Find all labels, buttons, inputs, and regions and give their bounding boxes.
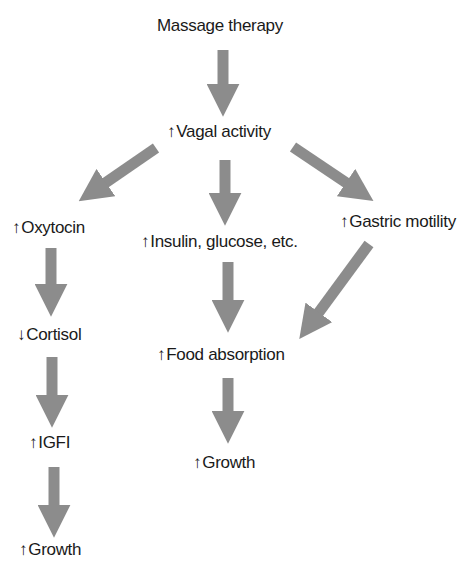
arrow-gastric-to-food (311, 244, 369, 323)
node-label: Food absorption (166, 345, 284, 364)
increase-arrow-icon: ↑ (29, 433, 37, 452)
increase-arrow-icon: ↑ (193, 453, 201, 472)
increase-arrow-icon: ↑ (167, 122, 175, 141)
node-vagal-activity: ↑Vagal activity (167, 122, 271, 142)
node-growth-left: ↑Growth (19, 540, 81, 560)
node-massage-therapy: Massage therapy (157, 16, 283, 36)
increase-arrow-icon: ↑ (12, 218, 20, 237)
node-label: Oxytocin (21, 218, 85, 237)
node-food-absorption: ↑Food absorption (157, 345, 285, 365)
node-label: Insulin, glucose, etc. (150, 232, 297, 251)
node-igfi: ↑IGFI (29, 433, 70, 453)
node-growth-middle: ↑Growth (193, 453, 255, 473)
node-label: Cortisol (26, 325, 81, 344)
increase-arrow-icon: ↑ (141, 232, 149, 251)
node-label: Growth (202, 453, 255, 472)
node-label: Growth (28, 540, 81, 559)
node-oxytocin: ↑Oxytocin (12, 218, 85, 238)
node-gastric-motility: ↑Gastric motility (340, 212, 456, 232)
node-label: Gastric motility (349, 212, 456, 231)
arrows-layer (0, 0, 469, 570)
node-label: IGFI (38, 433, 70, 452)
arrow-vagal-to-gastric (293, 147, 357, 190)
node-insulin-glucose: ↑Insulin, glucose, etc. (141, 232, 298, 252)
increase-arrow-icon: ↑ (340, 212, 348, 231)
node-label: Massage therapy (157, 16, 283, 35)
node-cortisol: ↓Cortisol (17, 325, 81, 345)
node-label: Vagal activity (176, 122, 271, 141)
arrow-vagal-to-oxytocin (95, 148, 156, 190)
increase-arrow-icon: ↑ (157, 345, 165, 364)
decrease-arrow-icon: ↓ (17, 325, 25, 344)
increase-arrow-icon: ↑ (19, 540, 27, 559)
